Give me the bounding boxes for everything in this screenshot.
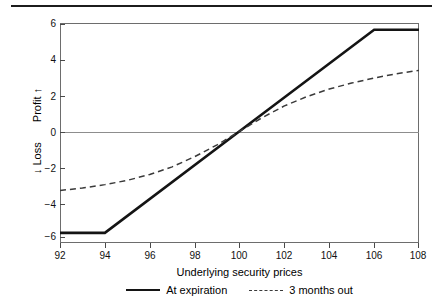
series-layer: [0, 0, 439, 304]
x-axis-title: Underlying security prices: [60, 266, 419, 278]
legend-dashed-line-icon: [249, 290, 283, 291]
y-axis-title-loss: Loss: [31, 142, 43, 165]
legend-solid-line-icon: [126, 289, 160, 291]
legend-label-3-months-out: 3 months out: [289, 284, 353, 296]
option-payoff-chart: 6 4 2 0 −2 −4 −6 92 94 96 98 100 102 104…: [0, 0, 439, 304]
chart-legend: At expiration 3 months out: [60, 284, 419, 296]
y-axis-title: ↓ Loss Profit ↑: [31, 31, 43, 231]
series-3-months-out: [60, 70, 419, 190]
legend-item-3-months-out[interactable]: 3 months out: [249, 284, 353, 296]
y-axis-loss-arrow: ↓: [31, 169, 43, 175]
legend-item-at-expiration[interactable]: At expiration: [126, 284, 227, 296]
legend-label-at-expiration: At expiration: [166, 284, 227, 296]
y-axis-title-profit: Profit: [31, 96, 43, 122]
y-axis-profit-arrow: ↑: [31, 88, 43, 94]
